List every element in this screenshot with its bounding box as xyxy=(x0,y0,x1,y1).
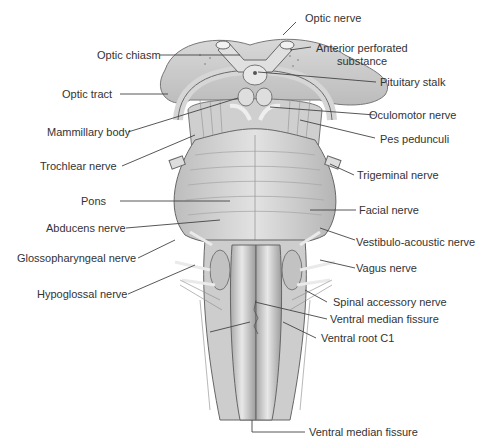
label-optic-tract: Optic tract xyxy=(62,88,112,100)
label-anterior-perforated-1: Anterior perforated xyxy=(316,42,408,54)
label-spinal-accessory-nerve: Spinal accessory nerve xyxy=(333,296,447,308)
label-ventral-median-fissure-lower: Ventral median fissure xyxy=(309,426,418,438)
label-oculomotor-nerve: Oculomotor nerve xyxy=(369,109,456,121)
label-hypoglossal-nerve: Hypoglossal nerve xyxy=(37,288,128,300)
label-vestibulo-acoustic-nerve: Vestibulo-acoustic nerve xyxy=(356,236,475,248)
label-pituitary-stalk: Pituitary stalk xyxy=(380,76,445,88)
label-pes-pedunculi: Pes pedunculi xyxy=(380,133,449,145)
label-trochlear-nerve: Trochlear nerve xyxy=(40,160,117,172)
mammillary-body-shape xyxy=(238,88,254,106)
label-pons: Pons xyxy=(81,195,106,207)
label-anterior-perforated-2: substance xyxy=(337,55,387,67)
brainstem-diagram: Optic nerve Optic chiasm Anterior perfor… xyxy=(0,0,482,445)
label-optic-nerve: Optic nerve xyxy=(305,12,361,24)
label-vagus-nerve: Vagus nerve xyxy=(356,262,417,274)
label-optic-chiasm: Optic chiasm xyxy=(97,49,161,61)
label-abducens-nerve: Abducens nerve xyxy=(46,222,126,234)
label-glossopharyngeal-nerve: Glossopharyngeal nerve xyxy=(17,252,136,264)
label-mammillary-body: Mammillary body xyxy=(47,126,130,138)
label-ventral-median-fissure-upper: Ventral median fissure xyxy=(330,313,439,325)
label-facial-nerve: Facial nerve xyxy=(359,204,419,216)
label-trigeminal-nerve: Trigeminal nerve xyxy=(357,169,439,181)
label-ventral-root-c1: Ventral root C1 xyxy=(321,332,394,344)
